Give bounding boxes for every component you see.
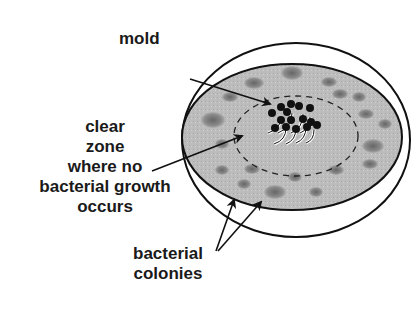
agar-plate <box>182 64 402 210</box>
clear-zone-line-2: zone <box>20 137 190 157</box>
bacterial-colonies-line-1: bacterial <box>118 244 218 264</box>
clear-zone-line-1: clear <box>20 117 190 137</box>
clear-zone-line-3: where no <box>20 157 190 177</box>
bacterial-colonies-line-2: colonies <box>118 264 218 284</box>
mold-label: mold <box>119 29 160 49</box>
clear-zone-label: clear zone where no bacterial growth occ… <box>20 117 190 217</box>
clear-zone-line-5: occurs <box>20 197 190 217</box>
bacterial-colonies-label: bacterial colonies <box>118 244 218 284</box>
clear-zone-line-4: bacterial growth <box>20 177 190 197</box>
